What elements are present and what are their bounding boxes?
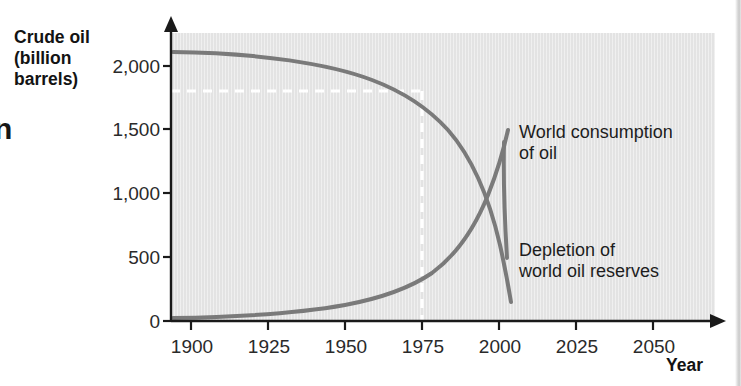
crude-oil-depletion-chart: n Crude oil (billion barrels) 0 500 1,00… [0,0,741,386]
axis-lines [164,16,726,328]
y-axis-arrow [164,16,178,32]
x-tick-marks [191,321,653,330]
chart-vector-layer [0,0,741,386]
x-axis-arrow [710,314,726,328]
curve-world-consumption [173,130,508,318]
guide-lines [171,91,422,320]
curve-consumption-rate [504,142,507,258]
